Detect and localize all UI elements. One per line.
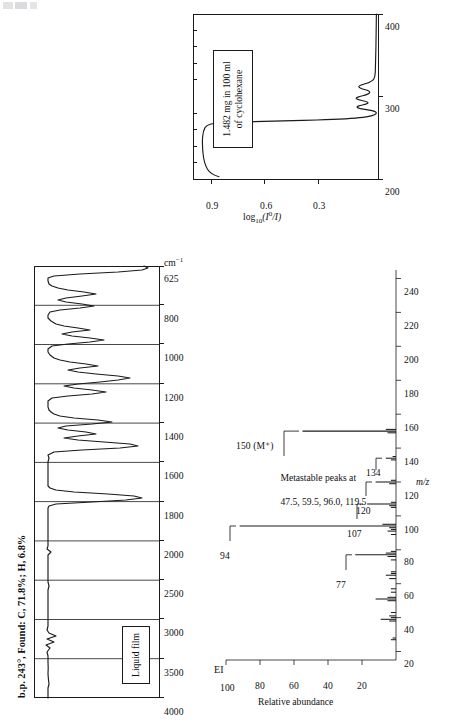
ms-ionization-label: EI	[214, 664, 224, 675]
ms-metastable-annotation: Metastable peaks at 47.5, 59.5, 96.0, 11…	[266, 460, 366, 520]
ir-tick-label: 3000	[164, 628, 184, 639]
uv-x-tick-label: 200	[385, 186, 400, 197]
ms-y-tick-label: 80	[255, 680, 265, 691]
ms-metastable-line2: 47.5, 59.5, 96.0, 119.5	[280, 496, 366, 507]
ir-tick-label: 3500	[164, 667, 184, 678]
uv-x-tick	[379, 179, 383, 180]
ms-peak-label-94: 94	[220, 550, 230, 561]
ir-sample-label-box: Liquid film	[122, 626, 150, 684]
ms-y-tick-label: 40	[323, 680, 333, 691]
ir-tick-label: 1000	[164, 353, 184, 364]
uv-y-tick	[318, 180, 319, 184]
ir-axis-title: cm−1	[164, 256, 183, 268]
scan-artifact-icon	[3, 2, 37, 9]
ms-x-tick-label: 180	[404, 388, 419, 399]
ir-tick	[160, 461, 164, 462]
uv-x-minor-tick	[193, 46, 197, 47]
ir-tick	[160, 619, 164, 620]
ms-y-tick-label: 100	[220, 682, 235, 693]
ir-axis-title-text: cm	[164, 257, 176, 268]
uv-concentration-line1: 1.482 mg in 100 ml	[221, 61, 233, 136]
uv-y-tick	[264, 180, 265, 184]
uv-y-axis-title: log10(I0/I)	[243, 210, 281, 225]
ms-peak-label-107: 107	[347, 528, 362, 539]
ms-x-tick-label: 140	[404, 456, 419, 467]
ir-tick	[160, 540, 164, 541]
ir-tick	[160, 579, 164, 580]
ir-tick	[160, 697, 164, 698]
ir-tick	[160, 501, 164, 502]
ir-tick-label: 1600	[164, 470, 184, 481]
ir-tick	[160, 344, 164, 345]
figure-page: b.p. 243°, Found: C, 71.8%; H, 6.8% Liqu…	[0, 0, 475, 728]
uv-x-minor-tick	[193, 63, 197, 64]
ms-y-tick-label: 60	[289, 680, 299, 691]
uv-x-minor-tick	[193, 146, 197, 147]
ms-x-tick-label: 220	[404, 320, 419, 331]
ms-peak-label-77: 77	[336, 579, 346, 590]
ir-tick-label: 2500	[164, 588, 184, 599]
uv-y-tick-label: 0.9	[206, 200, 218, 211]
uv-x-tick	[379, 14, 383, 15]
ms-peak-label-150: 150 (M⁺)	[236, 440, 274, 451]
uv-concentration-box: 1.482 mg in 100 ml of cyclohexane	[213, 50, 253, 148]
ms-x-tick-label: 40	[404, 624, 414, 635]
ir-tick	[160, 422, 164, 423]
ir-tick-label: 4000	[164, 706, 184, 717]
ms-x-tick-label: 120	[404, 490, 419, 501]
ms-x-tick-label: 20	[404, 658, 414, 669]
ms-x-tick-label: 60	[404, 590, 414, 601]
uv-x-tick-label: 300	[385, 103, 400, 114]
ms-y-axis-title: Relative abundance	[258, 696, 333, 707]
uv-y-tick	[211, 180, 212, 184]
uv-x-minor-tick	[193, 30, 197, 31]
ir-sample-label-text: Liquid film	[130, 633, 142, 677]
ms-x-tick-label: 160	[404, 422, 419, 433]
uv-x-minor-tick	[193, 162, 197, 163]
ir-tick-label: 625	[164, 273, 179, 284]
ms-x-tick-label: 100	[404, 524, 419, 535]
ms-metastable-line1: Metastable peaks at	[280, 472, 356, 483]
ir-tick-label: 1200	[164, 392, 184, 403]
ir-tick	[160, 304, 164, 305]
ms-x-axis-title: m/z	[416, 476, 429, 487]
ir-tick-label: 1400	[164, 431, 184, 442]
uv-y-tick-label: 0.3	[313, 200, 325, 211]
uv-x-tick	[379, 96, 383, 97]
uv-concentration-line2: of cyclohexane	[233, 70, 245, 128]
uv-spectrum-panel: 200 300 400 0.9 0.6 0.3 log10(I0/I) 1.48…	[185, 6, 431, 206]
ms-y-tick-label: 20	[357, 680, 367, 691]
mass-spectrum-panel: EI 20 40 60 80 100 Relative abundance 20…	[200, 250, 450, 722]
ms-peak-label-134: 134	[366, 467, 381, 478]
uv-y-axis-title-tail: /I)	[272, 211, 281, 222]
uv-x-minor-tick	[193, 129, 197, 130]
ir-tick-label: 2000	[164, 549, 184, 560]
ir-header-text: b.p. 243°, Found: C, 71.8%; H, 6.8%	[16, 535, 27, 698]
ir-axis-title-exponent: −1	[176, 256, 183, 264]
ir-tick	[160, 383, 164, 384]
ir-spectrum-panel: b.p. 243°, Found: C, 71.8%; H, 6.8% Liqu…	[14, 230, 166, 700]
uv-x-minor-tick	[193, 79, 197, 80]
ir-tick-label: 1800	[164, 510, 184, 521]
ir-tick-label: 800	[164, 313, 179, 324]
ms-x-tick-label: 200	[404, 354, 419, 365]
uv-x-tick-label: 400	[385, 21, 400, 32]
ir-tick	[160, 658, 164, 659]
ms-x-tick-label: 240	[404, 286, 419, 297]
uv-y-axis-title-log: log	[243, 211, 255, 222]
uv-x-minor-tick	[193, 113, 197, 114]
ms-x-tick-label: 80	[404, 556, 414, 567]
